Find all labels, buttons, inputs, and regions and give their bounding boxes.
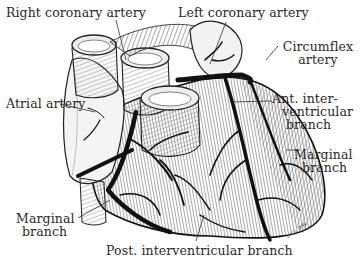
coronary-artery-diagram: L.C.L. D'W. Right coronary artery Left c… (0, 0, 362, 268)
label-right-coronary-artery: Right coronary artery (6, 6, 146, 19)
inferior-vena-cava (80, 178, 106, 225)
label-circumflex-artery-line2: artery (276, 53, 360, 66)
label-ant-interventricular-line3: branch (286, 118, 331, 131)
label-marginal-branch-left-line2: branch (22, 225, 67, 238)
label-atrial-artery: Atrial artery (6, 97, 85, 110)
label-marginal-branch-right-line2: branch (302, 161, 347, 174)
label-left-coronary-artery: Left coronary artery (178, 6, 309, 19)
label-post-interventricular-branch: Post. interventricular branch (106, 244, 293, 257)
